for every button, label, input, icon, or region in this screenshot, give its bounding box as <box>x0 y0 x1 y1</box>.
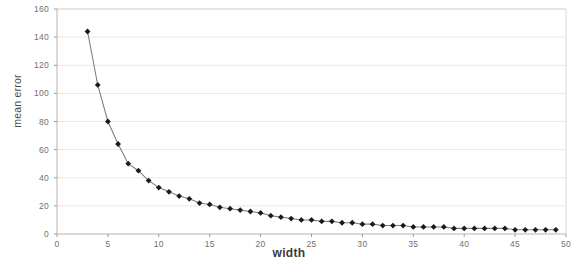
data-point-marker <box>410 224 416 230</box>
x-tick-label: 35 <box>401 239 425 249</box>
y-tick-label: 80 <box>19 117 49 127</box>
data-point-marker <box>85 29 91 35</box>
data-point-marker <box>543 227 549 233</box>
plot-area <box>0 0 578 265</box>
y-tick-label: 20 <box>19 201 49 211</box>
data-point-marker <box>441 224 447 230</box>
data-point-marker <box>400 223 406 229</box>
data-point-marker <box>502 225 508 231</box>
data-point-marker <box>421 224 427 230</box>
data-point-marker <box>288 216 294 222</box>
data-point-marker <box>217 204 223 210</box>
x-tick-label: 0 <box>45 239 69 249</box>
x-tick-label: 25 <box>300 239 324 249</box>
data-point-marker <box>95 82 101 88</box>
y-tick-label: 100 <box>19 88 49 98</box>
y-tick-label: 0 <box>19 229 49 239</box>
data-series-line <box>88 32 556 230</box>
data-point-marker <box>349 220 355 226</box>
data-point-marker <box>278 214 284 220</box>
y-tick-label: 40 <box>19 173 49 183</box>
data-point-marker <box>309 217 315 223</box>
data-point-marker <box>186 196 192 202</box>
y-tick-label: 140 <box>19 32 49 42</box>
data-point-marker <box>329 218 335 224</box>
y-tick-label: 60 <box>19 145 49 155</box>
data-point-marker <box>482 225 488 231</box>
data-point-marker <box>319 218 325 224</box>
data-point-marker <box>105 119 111 125</box>
data-point-marker <box>471 225 477 231</box>
data-point-marker <box>390 223 396 229</box>
data-point-marker <box>268 213 274 219</box>
x-tick-label: 30 <box>350 239 374 249</box>
data-point-marker <box>339 220 345 226</box>
data-point-marker <box>533 227 539 233</box>
data-point-marker <box>237 207 243 213</box>
data-point-marker <box>258 210 264 216</box>
data-point-marker <box>248 209 254 215</box>
x-tick-label: 50 <box>554 239 578 249</box>
x-tick-label: 10 <box>147 239 171 249</box>
data-point-marker <box>207 202 213 208</box>
data-point-marker <box>380 223 386 229</box>
data-point-marker <box>360 221 366 227</box>
x-tick-label: 5 <box>96 239 120 249</box>
data-point-marker <box>227 206 233 212</box>
data-point-marker <box>115 141 121 147</box>
data-point-marker <box>512 227 518 233</box>
y-tick-label: 160 <box>19 4 49 14</box>
data-point-marker <box>298 217 304 223</box>
data-point-marker <box>451 225 457 231</box>
data-point-marker <box>492 225 498 231</box>
y-tick-label: 120 <box>19 60 49 70</box>
data-point-marker <box>370 221 376 227</box>
data-point-marker <box>522 227 528 233</box>
x-tick-label: 20 <box>249 239 273 249</box>
x-tick-label: 40 <box>452 239 476 249</box>
data-point-marker <box>553 227 559 233</box>
data-point-marker <box>176 193 182 199</box>
chart-figure: mean error width 020406080100120140160 0… <box>0 0 578 265</box>
x-tick-label: 15 <box>198 239 222 249</box>
x-tick-label: 45 <box>503 239 527 249</box>
data-point-marker <box>166 189 172 195</box>
data-point-marker <box>431 224 437 230</box>
data-point-marker <box>197 200 203 206</box>
data-point-marker <box>461 225 467 231</box>
